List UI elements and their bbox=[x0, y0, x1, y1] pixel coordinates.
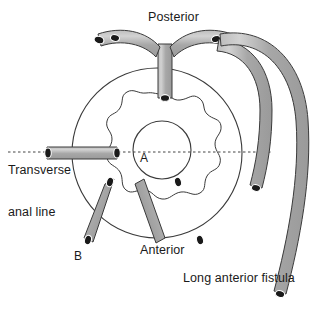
anterior-right-tube bbox=[135, 179, 165, 243]
label-anterior: Anterior bbox=[140, 243, 185, 257]
posterior-left-arm bbox=[98, 30, 160, 57]
internal-opening-anterior-right-icon bbox=[173, 176, 182, 187]
scalloped-anal-canal bbox=[107, 91, 221, 199]
anterior-left-fistula-B bbox=[83, 176, 114, 245]
label-point-b: B bbox=[74, 250, 82, 263]
label-posterior: Posterior bbox=[148, 10, 199, 24]
posterior-horseshoe-fistula bbox=[93, 30, 232, 101]
anterior-left-tube bbox=[84, 179, 114, 242]
internal-opening-posterior-icon bbox=[160, 95, 169, 102]
long-anterior-fistula-inner bbox=[217, 39, 272, 192]
label-transverse-anal-line-row1: Transverse bbox=[8, 163, 71, 177]
figure-canvas: Posterior Anterior Transverse anal line … bbox=[0, 0, 334, 316]
posterior-stem bbox=[158, 44, 172, 98]
label-transverse-anal-line: Transverse anal line bbox=[8, 135, 71, 247]
label-long-anterior-fistula: Long anterior fistula bbox=[183, 271, 295, 285]
label-transverse-anal-line-row2: anal line bbox=[8, 205, 71, 219]
long-anterior-inner-tube bbox=[217, 39, 272, 188]
external-opening-anterior-right-icon bbox=[195, 234, 204, 245]
label-point-a: A bbox=[140, 152, 148, 165]
anterior-right-fistula bbox=[135, 176, 205, 245]
internal-opening-transverse-icon bbox=[114, 148, 121, 158]
inner-anal-opening-circle bbox=[133, 121, 191, 179]
